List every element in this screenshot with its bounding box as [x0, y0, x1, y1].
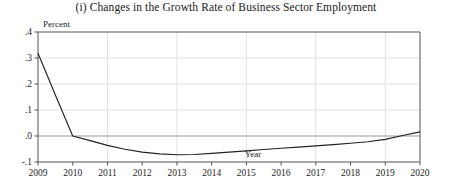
y-axis-tick-labels: .4.3.2.1.0-.1 [22, 27, 33, 167]
y-tick-label: .2 [25, 79, 32, 89]
axis-ticks [35, 32, 421, 166]
x-tick-label: 2016 [272, 168, 291, 178]
x-tick-label: 2012 [133, 168, 152, 178]
y-tick-label: .3 [25, 53, 32, 63]
y-axis-title: Percent [43, 19, 70, 29]
data-series-line [38, 53, 420, 154]
x-tick-label: 2020 [411, 168, 430, 178]
x-tick-label: 2018 [341, 168, 360, 178]
y-tick-label: .1 [25, 105, 32, 115]
line-chart-plot: .4.3.2.1.0-.1 20092010201120122013201420… [0, 0, 452, 182]
x-tick-label: 2017 [306, 168, 325, 178]
y-tick-label: -.1 [22, 157, 33, 167]
chart-figure: (i) Changes in the Growth Rate of Busine… [0, 0, 452, 182]
x-axis-tick-labels: 2009201020112012201320142015201620172018… [29, 168, 430, 178]
x-tick-label: 2015 [237, 168, 256, 178]
y-tick-label: .4 [25, 27, 32, 37]
x-tick-label: 2009 [29, 168, 48, 178]
x-tick-label: 2013 [167, 168, 186, 178]
x-tick-label: 2014 [202, 168, 221, 178]
y-tick-label: .0 [25, 131, 32, 141]
x-tick-label: 2019 [376, 168, 395, 178]
x-axis-title: Year [245, 149, 262, 159]
x-tick-label: 2010 [63, 168, 82, 178]
x-tick-label: 2011 [98, 168, 117, 178]
